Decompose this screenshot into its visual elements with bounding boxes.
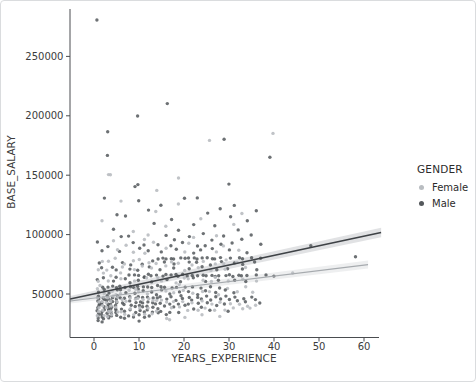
x-tick-label: 60 xyxy=(358,341,371,352)
x-tick-label: 30 xyxy=(223,341,236,352)
x-tick-label: 10 xyxy=(133,341,146,352)
female-swatch-icon xyxy=(419,185,424,190)
legend-label-male: Male xyxy=(432,198,456,209)
legend-label-female: Female xyxy=(432,182,468,193)
scatter-plot-figure: 0102030405060500001000001500002000002500… xyxy=(0,0,476,382)
y-tick-label: 100000 xyxy=(25,229,63,240)
x-axis-title: YEARS_EXPERIENCE xyxy=(170,352,276,365)
legend-title: GENDER xyxy=(417,163,468,175)
y-tick-label: 150000 xyxy=(25,170,63,181)
legend-item-male: Male xyxy=(417,196,468,212)
y-tick-label: 50000 xyxy=(32,289,64,300)
x-tick-label: 40 xyxy=(268,341,281,352)
scatter-points xyxy=(95,18,357,323)
x-tick-label: 50 xyxy=(313,341,326,352)
y-axis-title: BASE_SALARY xyxy=(5,135,18,209)
male-swatch-icon xyxy=(419,201,424,206)
x-tick-label: 0 xyxy=(91,341,97,352)
x-tick-label: 20 xyxy=(178,341,191,352)
y-tick-label: 200000 xyxy=(25,110,63,121)
legend-item-female: Female xyxy=(417,180,468,196)
plot-canvas: 0102030405060500001000001500002000002500… xyxy=(1,1,476,382)
y-tick-label: 250000 xyxy=(25,51,63,62)
tick-labels: 0102030405060500001000001500002000002500… xyxy=(25,51,370,352)
legend: GENDER Female Male xyxy=(417,163,468,211)
